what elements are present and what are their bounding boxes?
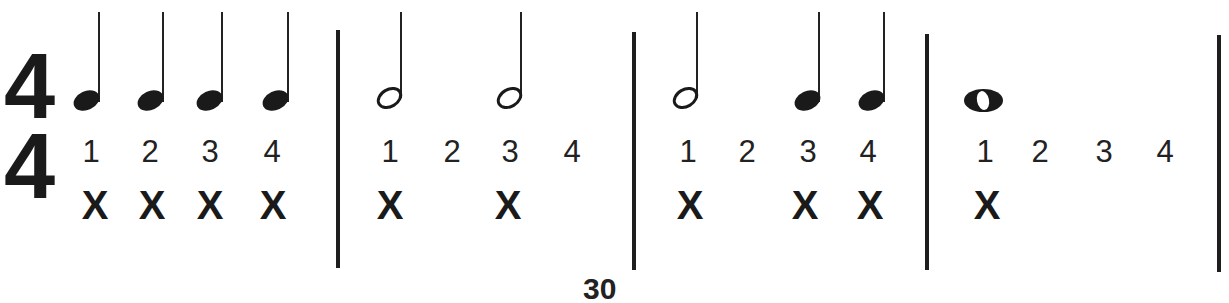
beat-count: 4 xyxy=(853,136,883,167)
barline-1 xyxy=(336,30,340,268)
clap-mark: X xyxy=(373,185,407,225)
beat-count: 2 xyxy=(437,136,467,167)
beat-count: 4 xyxy=(1150,136,1180,167)
time-signature-bottom: 4 xyxy=(4,120,55,212)
note-stem xyxy=(818,12,820,102)
note-stem xyxy=(287,12,289,102)
clap-mark: X xyxy=(673,185,707,225)
clap-mark: X xyxy=(788,185,822,225)
clap-mark: X xyxy=(256,185,290,225)
beat-count: 2 xyxy=(1025,136,1055,167)
whole-note-icon xyxy=(964,89,1003,112)
note-stem xyxy=(98,12,100,102)
clap-mark: X xyxy=(193,185,227,225)
beat-count: 3 xyxy=(1089,136,1119,167)
beat-count: 3 xyxy=(793,136,823,167)
page-number-clipped: 30 xyxy=(583,274,616,303)
beat-count: 2 xyxy=(732,136,762,167)
beat-count: 1 xyxy=(375,136,405,167)
beat-count: 3 xyxy=(195,136,225,167)
note-stem xyxy=(400,12,402,98)
beat-count: 1 xyxy=(970,136,1000,167)
note-stem xyxy=(520,12,522,98)
beat-count: 1 xyxy=(76,136,106,167)
barline-4 xyxy=(1217,35,1221,272)
note-stem xyxy=(221,12,223,102)
beat-count: 2 xyxy=(135,136,165,167)
note-stem xyxy=(696,12,698,98)
barline-2 xyxy=(632,32,636,270)
clap-mark: X xyxy=(970,185,1004,225)
beat-count: 4 xyxy=(257,136,287,167)
clap-mark: X xyxy=(853,185,887,225)
beat-count: 3 xyxy=(495,136,525,167)
clap-mark: X xyxy=(78,185,112,225)
beat-count: 1 xyxy=(673,136,703,167)
barline-3 xyxy=(925,34,929,270)
clap-mark: X xyxy=(491,185,525,225)
clap-mark: X xyxy=(135,185,169,225)
note-stem xyxy=(883,12,885,102)
beat-count: 4 xyxy=(557,136,587,167)
note-stem xyxy=(162,12,164,102)
